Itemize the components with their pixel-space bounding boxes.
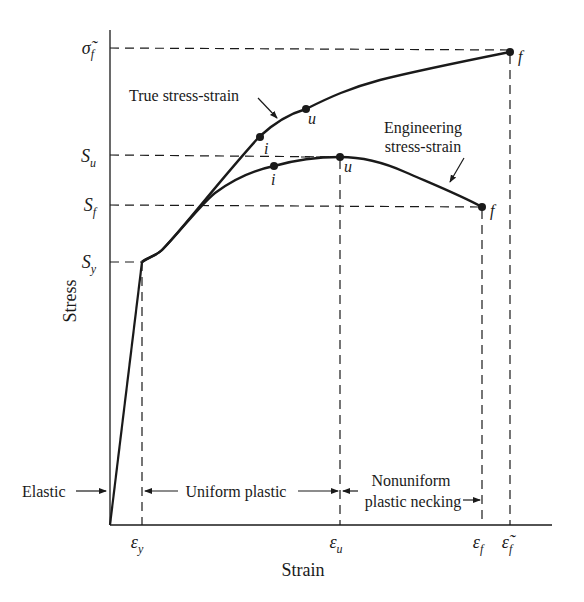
true-curve-label: True stress-strain (129, 87, 239, 104)
eng-u-label: u (344, 158, 352, 175)
true-i-label: i (264, 140, 268, 157)
elastic-line (110, 262, 142, 525)
etf-tick: ε̃f (502, 532, 517, 556)
true-i-marker (256, 133, 264, 141)
stress-strain-diagram: i u f i u f True stress-strain Engineeri… (0, 0, 584, 602)
nonuniform-label-line1: Nonuniform (371, 472, 451, 489)
su-tick: Su (81, 146, 96, 170)
true-u-label: u (308, 110, 316, 127)
eng-f-marker (478, 203, 486, 211)
eng-i-label: i (271, 171, 275, 188)
ef-tick: εf (473, 532, 485, 556)
sf-hline (110, 205, 482, 207)
ey-tick: εy (131, 532, 144, 556)
true-f-label: f (518, 48, 525, 66)
elastic-region-label: Elastic (22, 483, 66, 500)
sf-tick: Sf (84, 195, 98, 219)
y-axis-title: Stress (60, 279, 80, 322)
eng-curve-label-line2: stress-strain (385, 138, 461, 155)
eng-u-marker (336, 153, 344, 161)
sy-tick: Sy (82, 252, 97, 276)
uniform-plastic-label: Uniform plastic (186, 483, 287, 501)
eng-curve-arrow (450, 158, 464, 182)
x-axis-title: Strain (282, 560, 325, 580)
eu-tick: εu (329, 532, 342, 556)
eng-i-marker (270, 162, 278, 170)
true-curve-arrow (258, 98, 277, 118)
sigma-f-tick: σ̃f (82, 38, 99, 61)
true-f-marker (506, 48, 514, 56)
eng-curve-label-line1: Engineering (384, 119, 462, 137)
engineering-stress-strain-curve (142, 157, 482, 262)
sigma-f-hline (110, 48, 510, 50)
nonuniform-label-line2: plastic necking (365, 493, 461, 511)
axes (110, 30, 552, 525)
eng-f-label: f (490, 202, 497, 220)
